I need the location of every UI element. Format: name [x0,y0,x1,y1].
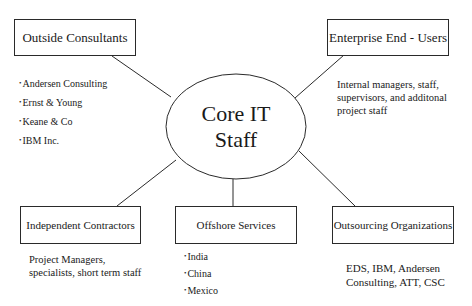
list-item: Ernst & Young [19,93,107,112]
list-item: India [184,248,218,265]
core-label-line2: Staff [215,127,257,153]
independent-contractors-description: Project Managers, specialists, short ter… [29,253,141,279]
outsourcing-organizations-description: EDS, IBM, Andersen Consulting, ATT, CSC [346,261,445,289]
independent-contractors-label: Independent Contractors [26,219,134,231]
list-item: IBM Inc. [19,131,107,150]
outsourcing-organizations-label: Outsourcing Organizations [334,219,453,231]
outside-consultants-box: Outside Consultants [14,19,136,56]
list-item: China [184,265,218,282]
line-outside-consultants [112,56,171,97]
enterprise-end-users-box: Enterprise End - Users [327,19,449,56]
line-outsourcing-organizations [299,151,355,206]
offshore-services-list: India China Mexico [184,248,218,299]
enterprise-end-users-label: Enterprise End - Users [329,30,447,46]
core-it-staff-node: Core IT Staff [166,74,306,179]
list-item: Mexico [184,282,218,299]
enterprise-end-users-description: Internal managers, staff, supervisors, a… [337,78,447,117]
independent-contractors-box: Independent Contractors [20,206,141,244]
list-item: Andersen Consulting [19,74,107,93]
offshore-services-box: Offshore Services [175,206,297,244]
core-label-line1: Core IT [201,101,270,127]
list-item: Keane & Co [19,112,107,131]
outside-consultants-list: Andersen Consulting Ernst & Young Keane … [19,74,107,150]
outside-consultants-label: Outside Consultants [22,30,127,46]
offshore-services-label: Offshore Services [197,219,276,231]
outsourcing-organizations-box: Outsourcing Organizations [332,206,454,244]
